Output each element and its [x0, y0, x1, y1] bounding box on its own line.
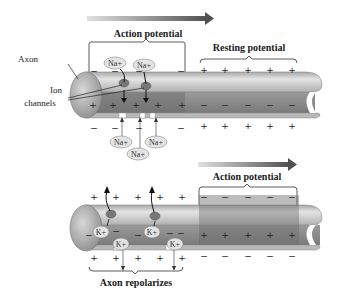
svg-text:K+: K+ — [147, 228, 158, 237]
svg-text:+: + — [134, 192, 142, 202]
svg-text:+: + — [134, 253, 142, 263]
svg-text:−: − — [112, 226, 120, 236]
svg-text:−: − — [111, 66, 119, 76]
svg-text:+: + — [200, 121, 208, 131]
svg-text:+: + — [244, 65, 252, 75]
svg-text:+: + — [288, 121, 296, 131]
svg-text:+: + — [221, 65, 229, 75]
svg-text:−: − — [177, 66, 185, 76]
ion-channel — [150, 212, 160, 220]
svg-text:−: − — [288, 100, 296, 110]
svg-text:+: + — [221, 230, 229, 240]
svg-text:−: − — [90, 66, 98, 76]
svg-text:+: + — [178, 253, 186, 263]
svg-text:+: + — [200, 230, 208, 240]
svg-text:+: + — [112, 192, 120, 202]
action-potential-label-bottom: Action potential — [213, 171, 282, 182]
svg-text:−: − — [288, 192, 296, 202]
svg-text:+: + — [90, 253, 98, 263]
action-potential-label-top: Action potential — [114, 28, 183, 39]
ion-channels-label-line1: Ion — [50, 85, 62, 95]
axon-repolarizes-label: Axon repolarizes — [100, 277, 172, 288]
svg-text:K+: K+ — [170, 240, 181, 249]
bottom-panel: Action potential K+ K+ — [70, 158, 322, 288]
svg-text:−: − — [135, 123, 143, 133]
svg-text:+: + — [156, 253, 164, 263]
svg-text:−: − — [166, 228, 174, 238]
svg-text:+: + — [288, 65, 296, 75]
axon-action-potential-diagram: Action potential Resting potential Axon … — [0, 0, 340, 302]
na-ion-bottom: Na+ — [145, 117, 167, 148]
svg-text:+: + — [200, 65, 208, 75]
direction-arrow-bottom — [198, 158, 297, 171]
axon-label: Axon — [18, 54, 38, 64]
svg-text:−: − — [221, 100, 229, 110]
svg-text:+: + — [244, 121, 252, 131]
svg-text:Na+: Na+ — [114, 138, 128, 147]
svg-text:−: − — [85, 230, 93, 240]
svg-text:+: + — [89, 100, 97, 110]
svg-text:−: − — [200, 251, 208, 261]
resting-potential-label: Resting potential — [213, 42, 286, 53]
svg-text:Na+: Na+ — [149, 138, 163, 147]
svg-text:−: − — [135, 66, 143, 76]
svg-text:+: + — [112, 253, 120, 263]
svg-text:−: − — [266, 251, 274, 261]
ion-channel — [106, 210, 116, 218]
svg-text:−: − — [177, 123, 185, 133]
svg-text:−: − — [90, 123, 98, 133]
svg-text:−: − — [244, 192, 252, 202]
svg-text:−: − — [266, 100, 274, 110]
svg-text:−: − — [200, 100, 208, 110]
svg-text:−: − — [221, 192, 229, 202]
svg-text:+: + — [132, 100, 140, 110]
svg-text:+: + — [154, 100, 162, 110]
svg-text:−: − — [177, 228, 185, 238]
top-panel: Action potential Resting potential Axon … — [18, 12, 322, 160]
repolarizes-bracket — [89, 267, 183, 274]
ion-channels-label-line2: channels — [24, 98, 56, 108]
resting-potential-bracket — [200, 56, 297, 63]
svg-text:+: + — [156, 192, 164, 202]
svg-text:−: − — [200, 192, 208, 202]
svg-text:−: − — [266, 192, 274, 202]
svg-text:−: − — [288, 251, 296, 261]
svg-text:+: + — [90, 192, 98, 202]
svg-text:−: − — [244, 251, 252, 261]
svg-text:+: + — [178, 192, 186, 202]
svg-text:+: + — [266, 121, 274, 131]
svg-text:+: + — [244, 230, 252, 240]
svg-text:K+: K+ — [96, 228, 107, 237]
svg-text:K+: K+ — [116, 240, 127, 249]
svg-text:−: − — [111, 123, 119, 133]
svg-text:−: − — [134, 230, 142, 240]
svg-text:+: + — [266, 65, 274, 75]
svg-text:−: − — [221, 251, 229, 261]
svg-text:+: + — [178, 100, 186, 110]
direction-arrow-top — [87, 12, 214, 25]
axon-tube-top — [70, 72, 322, 118]
svg-text:+: + — [221, 121, 229, 131]
svg-text:−: − — [244, 100, 252, 110]
k-ion-inside: K+ — [144, 226, 160, 238]
k-ion-inside: K+ — [93, 226, 109, 238]
svg-text:+: + — [288, 230, 296, 240]
svg-text:+: + — [109, 100, 117, 110]
svg-text:+: + — [266, 230, 274, 240]
svg-text:Na+: Na+ — [131, 150, 145, 159]
